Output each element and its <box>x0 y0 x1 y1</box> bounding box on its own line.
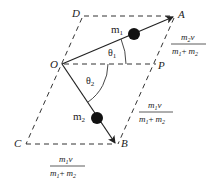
fraction-side-PB: m1v m1+m2 <box>139 100 173 125</box>
fraction-denominator: m1+m2 <box>172 46 198 57</box>
fraction-denominator: m1+m2 <box>50 168 76 179</box>
mass-label-m1: m1 <box>111 23 124 37</box>
fraction-side-PA: m2v m1+m2 <box>171 32 206 57</box>
point-label-P: P <box>157 59 165 71</box>
mass-label-m2: m2 <box>73 110 86 124</box>
fraction-numerator: m2v <box>181 32 195 43</box>
mass-ball-m1 <box>128 28 140 40</box>
angle-label-theta2: θ2 <box>86 75 95 88</box>
fraction-numerator: m1v <box>148 100 162 111</box>
angle-arc-theta1 <box>121 39 126 64</box>
point-label-O: O <box>50 58 58 70</box>
fraction-denominator: m1+m2 <box>139 114 165 125</box>
mass-ball-m2 <box>91 112 103 124</box>
point-label-A: A <box>177 8 185 20</box>
momentum-parallelogram-diagram: D A O P C B m1 m2 θ1 θ2 m2v m1+m2 m1v m1… <box>0 0 214 184</box>
point-label-C: C <box>14 137 22 149</box>
point-label-D: D <box>71 7 80 19</box>
angle-label-theta1: θ1 <box>108 47 117 60</box>
fraction-side-CB: m1v m1+m2 <box>50 154 85 179</box>
point-label-B: B <box>121 137 128 149</box>
fraction-numerator: m1v <box>59 154 73 165</box>
